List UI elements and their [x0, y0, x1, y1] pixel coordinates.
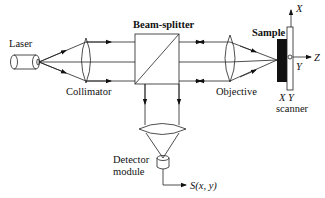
return-beams — [145, 84, 179, 125]
axis-z-label: Z — [314, 52, 320, 63]
beam-splitter-label: Beam-splitter — [133, 19, 195, 30]
diverging-rays — [39, 42, 135, 81]
detector-label-line2: module — [113, 166, 145, 177]
axes — [288, 10, 311, 59]
laser-label: Laser — [9, 38, 33, 49]
sample-label: Sample — [252, 27, 286, 38]
detector-rays — [146, 133, 179, 158]
signal-output — [163, 169, 186, 185]
sample-icon — [277, 39, 287, 82]
scanner-label-xy: X Y — [278, 92, 295, 103]
objective-beams — [179, 42, 230, 81]
axis-x-label: X — [295, 3, 303, 14]
axis-y-label: Y — [296, 61, 303, 72]
confocal-microscope-diagram: Laser Collimator Beam-splitter Objective — [0, 0, 325, 198]
collimator-label: Collimator — [66, 86, 112, 97]
collimator-lens-icon — [82, 38, 91, 83]
collimated-beams — [86, 42, 135, 81]
beam-splitter-icon — [135, 34, 179, 84]
objective-label: Objective — [216, 86, 257, 97]
focusing-rays — [230, 42, 277, 81]
laser-icon — [11, 55, 40, 69]
scanner-label: scanner — [276, 103, 309, 114]
signal-label: S(x, y) — [190, 180, 217, 192]
xy-scanner-icon — [287, 27, 293, 90]
detector-lens-icon — [139, 124, 186, 135]
detector-label-line1: Detector — [113, 154, 150, 165]
